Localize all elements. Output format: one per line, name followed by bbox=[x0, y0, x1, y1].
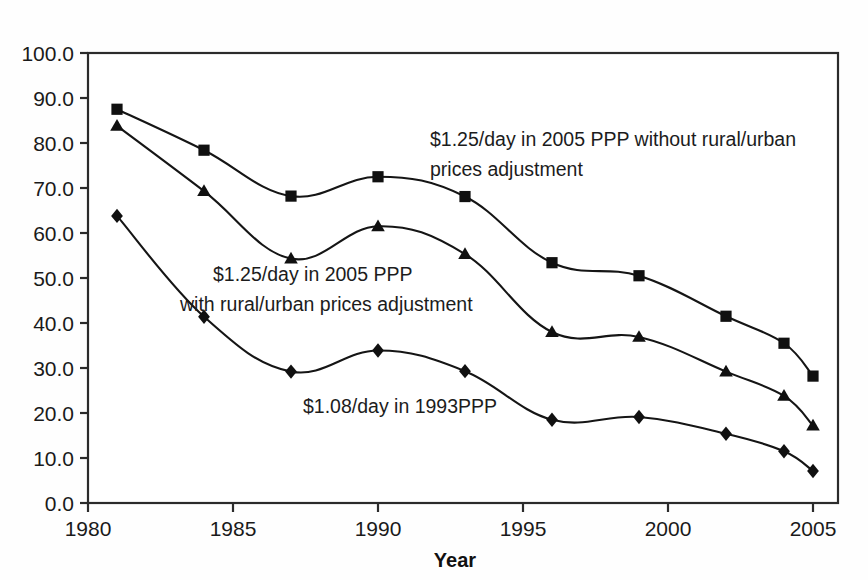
x-axis-title: Year bbox=[434, 549, 476, 571]
y-tick-label: 60.0 bbox=[33, 222, 74, 245]
data-point-square: 2005: 28.2 bbox=[807, 371, 818, 382]
data-point-square: 1990: 72.5 bbox=[372, 171, 383, 182]
data-point-square: 1993: 68.1 bbox=[459, 191, 470, 202]
y-tick-label: 20.0 bbox=[33, 402, 74, 425]
data-point-square: 2004: 35.5 bbox=[778, 338, 789, 349]
annotation-with-adjustment-line1: $1.25/day in 2005 PPP bbox=[213, 263, 413, 285]
y-axis-tick-labels: 100.0 90.0 80.0 70.0 60.0 50.0 40.0 30.0… bbox=[21, 42, 74, 515]
annotation-without-adjustment-line2: prices adjustment bbox=[430, 158, 583, 180]
y-tick-label: 10.0 bbox=[33, 447, 74, 470]
chart-figure: 100.0 90.0 80.0 70.0 60.0 50.0 40.0 30.0… bbox=[0, 0, 868, 580]
data-point-square: 1996: 53.4 bbox=[546, 257, 557, 268]
x-tick-label: 2005 bbox=[790, 517, 837, 540]
x-tick-label: 1980 bbox=[65, 517, 112, 540]
x-tick-label: 2000 bbox=[645, 517, 692, 540]
annotation-without-adjustment-line1: $1.25/day in 2005 PPP without rural/urba… bbox=[430, 128, 796, 150]
data-point-square: 1984: 78.4 bbox=[198, 145, 209, 156]
annotation-1993ppp-line1: $1.08/day in 1993PPP bbox=[303, 395, 497, 417]
y-tick-label: 90.0 bbox=[33, 87, 74, 110]
annotation-with-adjustment-line2: with rural/urban prices adjustment bbox=[179, 293, 473, 315]
y-tick-label: 80.0 bbox=[33, 132, 74, 155]
x-tick-label: 1985 bbox=[210, 517, 257, 540]
data-point-square: 2002: 41.5 bbox=[720, 311, 731, 322]
x-tick-label: 1990 bbox=[355, 517, 402, 540]
x-axis-ticks bbox=[88, 503, 813, 512]
y-tick-label: 50.0 bbox=[33, 267, 74, 290]
poverty-rate-line-chart: 100.0 90.0 80.0 70.0 60.0 50.0 40.0 30.0… bbox=[0, 0, 868, 580]
data-point-square: 1987: 68.2 bbox=[285, 191, 296, 202]
y-axis-ticks bbox=[80, 53, 88, 503]
x-axis-tick-labels: 1980 1985 1990 1995 2000 2005 bbox=[65, 517, 837, 540]
data-point-square: 1999: 50.5 bbox=[633, 270, 644, 281]
y-tick-label: 100.0 bbox=[21, 42, 74, 65]
y-tick-label: 40.0 bbox=[33, 312, 74, 335]
data-point-square: 1981: 87.5 bbox=[111, 104, 122, 115]
x-tick-label: 1995 bbox=[500, 517, 547, 540]
y-tick-label: 70.0 bbox=[33, 177, 74, 200]
y-tick-label: 30.0 bbox=[33, 357, 74, 380]
y-tick-label: 0.0 bbox=[45, 492, 74, 515]
